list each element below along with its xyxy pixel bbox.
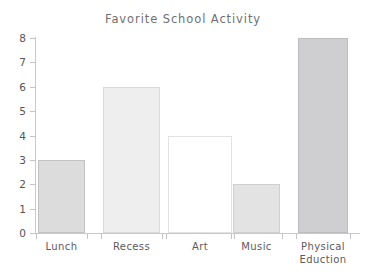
x-tick-mark	[350, 234, 351, 239]
y-tick-label: 8	[0, 32, 26, 44]
x-category-label-line: Recess	[93, 241, 171, 254]
x-category-label: PhysicalEduction	[284, 241, 362, 266]
x-tick-mark	[36, 234, 37, 239]
x-tick-mark	[162, 234, 163, 239]
bar	[38, 160, 85, 233]
x-tick-mark	[166, 234, 167, 239]
y-tick-label: 6	[0, 81, 26, 93]
x-category-label: Recess	[93, 241, 171, 254]
bar	[168, 136, 232, 234]
chart-title: Favorite School Activity	[0, 12, 366, 26]
y-tick-label: 5	[0, 105, 26, 117]
bar	[103, 87, 160, 233]
x-category-label-line: Lunch	[23, 241, 101, 254]
x-category-label-line: Eduction	[284, 254, 362, 267]
y-tick-label: 0	[0, 227, 26, 239]
bar-chart: Favorite School Activity 012345678 Lunch…	[0, 0, 366, 279]
x-category-label: Lunch	[23, 241, 101, 254]
bar	[233, 184, 280, 233]
x-tick-mark	[87, 234, 88, 239]
x-tick-mark	[282, 234, 283, 239]
y-tick-label: 7	[0, 56, 26, 68]
x-axis-line	[35, 233, 360, 234]
x-tick-mark	[234, 234, 235, 239]
x-tick-mark	[296, 234, 297, 239]
x-category-label-line: Physical	[284, 241, 362, 254]
x-tick-mark	[231, 234, 232, 239]
plot-area	[36, 38, 360, 233]
y-tick-label: 1	[0, 203, 26, 215]
y-tick-label: 4	[0, 130, 26, 142]
y-tick-label: 2	[0, 178, 26, 190]
bar	[298, 38, 348, 233]
y-tick-label: 3	[0, 154, 26, 166]
x-tick-mark	[101, 234, 102, 239]
